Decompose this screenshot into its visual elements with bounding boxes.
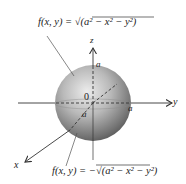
radius-label-y: a bbox=[128, 104, 133, 113]
x-axis-label: x bbox=[14, 160, 18, 170]
origin-label: 0 bbox=[84, 92, 89, 102]
bottom-equation: f(x, y) = −√(a² − x² − y²) bbox=[52, 166, 157, 177]
z-axis-label: z bbox=[90, 36, 94, 45]
bottom-pointer-line bbox=[66, 133, 77, 166]
y-axis-label: y bbox=[173, 97, 177, 107]
radius-label-x: a bbox=[82, 110, 87, 119]
x-axis bbox=[25, 130, 70, 162]
sphere-diagram bbox=[0, 0, 186, 184]
top-pointer-line bbox=[47, 36, 74, 76]
top-equation: f(x, y) = √(a² − x² − y²) bbox=[38, 17, 136, 28]
radius-label-z: a bbox=[96, 60, 101, 69]
